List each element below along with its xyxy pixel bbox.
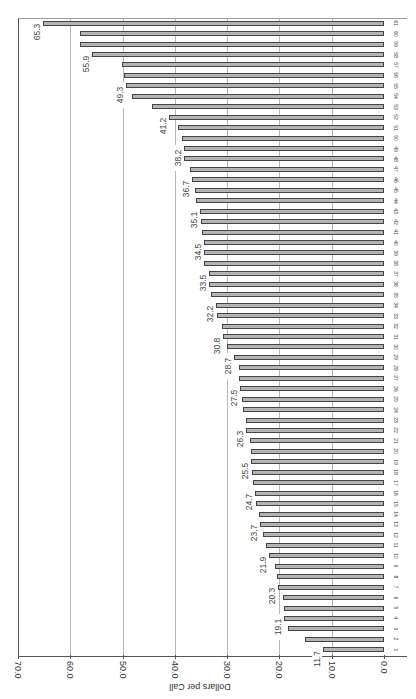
- bar-46: [192, 177, 384, 182]
- bar-49: [184, 146, 384, 151]
- gridline: [70, 18, 71, 655]
- category-label: 6: [393, 592, 399, 604]
- bar-29: [234, 355, 384, 360]
- bar-50: [182, 136, 384, 141]
- category-label: 61: [393, 17, 399, 29]
- value-axis-title: Dollars per Call: [150, 682, 250, 692]
- gridline: [175, 18, 176, 655]
- category-label: 24: [393, 404, 399, 416]
- bar-18: [252, 470, 384, 475]
- value-label: 65.3: [32, 19, 42, 45]
- bar-44: [196, 198, 384, 203]
- bar-6: [283, 595, 384, 600]
- category-label: 20: [393, 445, 399, 457]
- value-label: 30.8: [212, 333, 222, 359]
- value-label: 20.3: [267, 583, 277, 609]
- category-label: 40: [393, 237, 399, 249]
- bar-45: [195, 188, 384, 193]
- category-label: 35: [393, 289, 399, 301]
- category-label: 33: [393, 310, 399, 322]
- category-label: 18: [393, 466, 399, 478]
- bar-27: [239, 376, 384, 381]
- bar-10: [269, 553, 384, 558]
- category-label: 44: [393, 195, 399, 207]
- category-label: 52: [393, 111, 399, 123]
- tick-mark: [70, 655, 71, 659]
- value-label: 41.2: [158, 113, 168, 139]
- bar-1: [323, 647, 384, 652]
- bar-13: [260, 522, 384, 527]
- bar-22: [246, 428, 384, 433]
- bar-7: [278, 585, 384, 590]
- category-label: 31: [393, 331, 399, 343]
- bar-12: [263, 532, 384, 537]
- category-label: 51: [393, 122, 399, 134]
- value-tick-label: 70.0: [13, 661, 23, 679]
- bar-42: [201, 219, 384, 224]
- category-label: 12: [393, 529, 399, 541]
- category-label: 54: [393, 90, 399, 102]
- category-label: 3: [393, 623, 399, 635]
- category-label: 11: [393, 539, 399, 551]
- bar-35: [211, 292, 384, 297]
- tick-mark: [175, 655, 176, 659]
- tick-mark: [227, 655, 228, 659]
- tick-mark: [279, 655, 280, 659]
- bar-28: [239, 365, 384, 370]
- bar-41: [202, 230, 384, 235]
- category-label: 4: [393, 612, 399, 624]
- category-label: 19: [393, 456, 399, 468]
- category-label: 55: [393, 80, 399, 92]
- bar-11: [266, 543, 384, 548]
- category-label: 58: [393, 49, 399, 61]
- value-label: 35.1: [189, 207, 199, 233]
- bar-39: [204, 250, 384, 255]
- bar-26: [240, 386, 384, 391]
- tick-mark: [332, 655, 333, 659]
- value-label: 34.5: [193, 239, 203, 265]
- category-label: 15: [393, 498, 399, 510]
- bar-51: [178, 125, 384, 130]
- category-label: 9: [393, 560, 399, 572]
- category-label: 13: [393, 518, 399, 530]
- bar-30: [227, 344, 384, 349]
- bar-3: [288, 626, 384, 631]
- gridline: [123, 18, 124, 655]
- value-label: 33.5: [198, 270, 208, 296]
- category-label: 49: [393, 143, 399, 155]
- category-label: 27: [393, 372, 399, 384]
- category-label: 38: [393, 257, 399, 269]
- bar-53: [152, 104, 384, 109]
- tick-mark: [384, 655, 385, 659]
- bar-34: [216, 303, 384, 308]
- category-label: 46: [393, 174, 399, 186]
- bar-43: [200, 209, 384, 214]
- category-label: 2: [393, 633, 399, 645]
- tick-mark: [18, 655, 19, 659]
- category-label: 17: [393, 477, 399, 489]
- bar-38: [204, 261, 384, 266]
- category-label: 45: [393, 184, 399, 196]
- bar-61: [43, 21, 384, 26]
- bar-32: [222, 324, 384, 329]
- bar-2: [305, 637, 384, 642]
- value-label: 19.1: [273, 614, 283, 640]
- category-label: 36: [393, 278, 399, 290]
- bar-37: [209, 271, 384, 276]
- bar-14: [259, 512, 384, 517]
- value-tick-label: 10.0: [327, 661, 337, 679]
- value-label: 49.3: [115, 82, 125, 108]
- value-tick-label: 30.0: [222, 661, 232, 679]
- bar-36: [209, 282, 384, 287]
- value-label: 24.7: [244, 489, 254, 515]
- value-tick-label: 20.0: [274, 661, 284, 679]
- bar-59: [80, 42, 384, 47]
- bar-60: [80, 31, 384, 36]
- bar-58: [92, 52, 384, 57]
- bar-48: [184, 156, 384, 161]
- category-label: 29: [393, 351, 399, 363]
- category-label: 22: [393, 424, 399, 436]
- category-label: 8: [393, 571, 399, 583]
- bar-40: [204, 240, 384, 245]
- bar-23: [246, 418, 384, 423]
